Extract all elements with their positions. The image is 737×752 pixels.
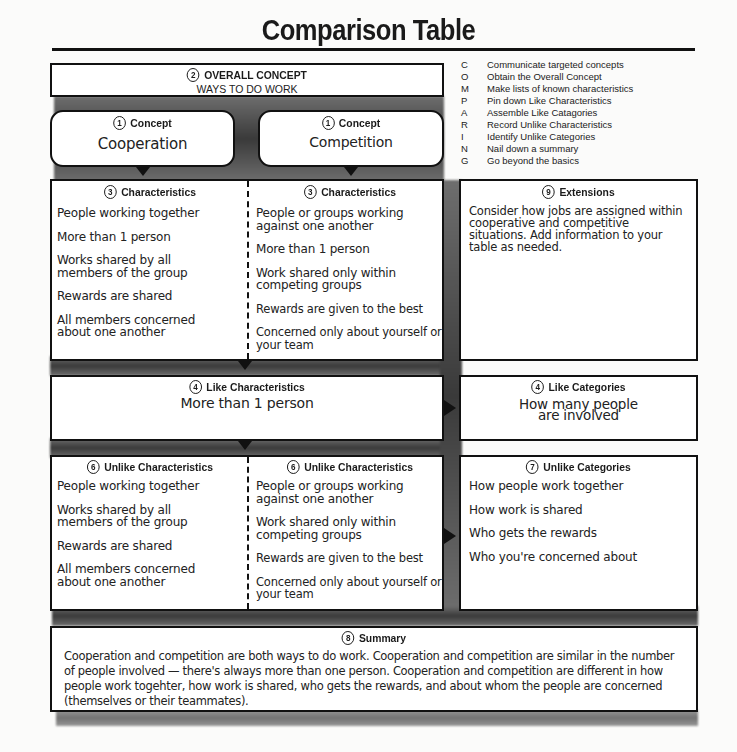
like-characteristics-box: 4Like Characteristics More than 1 person [50,375,444,441]
legend-letter: R [461,119,487,131]
list-item: All members concerned about one another [57,314,217,339]
dashed-divider [247,457,249,609]
legend-letter: P [461,95,487,107]
list-item: Concerned only about yourself or your te… [256,326,444,351]
list-item: Concerned only about yourself or your te… [256,576,444,601]
list-item: Works shared by all members of the group [57,504,207,529]
concept-label: Concept [130,117,171,129]
legend-letter: M [461,83,487,95]
list-item: Rewards are given to the best [256,303,444,316]
legend-text: Communicate targeted concepts [487,59,624,71]
step-number: 7 [526,460,539,474]
unlike-categories-box: 7Unlike Categories How people work toget… [459,455,698,611]
list-item: People working together [57,207,243,220]
like-categories-box: 4Like Categories How many people are inv… [459,375,698,441]
summary-box: 8Summary Cooperation and competition are… [50,626,698,712]
list-item: People or groups working against one ano… [256,207,416,232]
step-number: 1 [322,116,335,130]
legend-letter: I [461,131,487,143]
overall-concept-value: WAYS TO DO WORK [52,83,442,95]
list-item: Who gets the rewards [469,527,688,540]
unlike-characteristics-right: 6Unlike Characteristics People or groups… [256,460,444,612]
section-label: Unlike Categories [543,461,630,473]
list-item: Works shared by all members of the group [57,254,207,279]
step-number: 4 [531,380,544,394]
arrow-down-icon [238,441,252,450]
step-number: 3 [304,185,317,199]
list-item: All members concerned about one another [57,563,217,588]
unlike-characteristics-box: 6Unlike Characteristics People working t… [50,455,444,611]
list-item: Rewards are shared [57,290,243,303]
concept-value: Cooperation [52,138,233,151]
concept-value: Competition [260,136,442,149]
section-label: Unlike Characteristics [104,461,213,473]
arrow-down-icon [238,361,252,370]
legend-text: Obtain the Overall Concept [487,71,602,83]
legend-text: Assemble Like Catagories [487,107,597,119]
list-item: More than 1 person [256,243,444,256]
step-number: 2 [187,68,200,82]
concept-label: Concept [339,117,380,129]
legend-letter: O [461,71,487,83]
list-item: More than 1 person [57,231,243,244]
characteristics-left: 3Characteristics People working together… [57,185,243,350]
list-item: People or groups working against one ano… [256,480,416,505]
legend-text: Make lists of known characteristics [487,83,633,95]
section-label: Characteristics [121,186,196,198]
section-label: Characteristics [321,186,396,198]
legend-text: Record Unlike Characteristics [487,119,612,131]
concept-box-right: 1Concept Competition [258,110,444,167]
legend-letter: C [461,59,487,71]
list-item: Who you're concerned about [469,551,688,564]
extensions-text: Consider how jobs are assigned within co… [469,205,688,253]
step-number: 1 [113,116,126,130]
step-number: 4 [189,380,202,394]
list-item: Work shared only within competing groups [256,267,416,292]
step-number: 6 [287,460,300,474]
legend-text: Pin down Like Characteristics [487,95,612,107]
concept-box-left: 1Concept Cooperation [50,110,235,167]
list-item: How work is shared [469,504,688,517]
step-number: 3 [104,185,117,199]
section-label: Unlike Characteristics [304,461,413,473]
arrow-down-icon [344,167,358,176]
list-item: Work shared only within competing groups [256,516,416,541]
overall-concept-box: 2OVERALL CONCEPT WAYS TO DO WORK [50,63,444,97]
extensions-box: 9Extensions Consider how jobs are assign… [459,179,698,361]
unlike-characteristics-left: 6Unlike Characteristics People working t… [57,460,243,599]
legend-text: Nail down a summary [487,143,578,155]
characteristics-box: 3Characteristics People working together… [50,179,444,361]
like-categories-value: How many people are involved [509,399,649,421]
section-label: Like Characteristics [206,381,304,393]
step-number: 9 [542,185,555,199]
overall-concept-label: OVERALL CONCEPT [204,69,307,81]
section-label: Summary [359,632,406,644]
shadow [56,710,698,726]
arrow-down-icon [136,167,150,176]
page-title: Comparison Table [44,14,693,47]
arrow-right-icon [444,528,456,544]
legend-text: Go beyond the basics [487,155,579,167]
list-item: Rewards are given to the best [256,552,444,565]
like-characteristics-value: More than 1 person [52,397,442,410]
list-item: People working together [57,480,243,493]
step-number: 8 [342,631,355,645]
dashed-divider [247,181,249,359]
section-label: Extensions [559,186,614,198]
characteristics-right: 3Characteristics People or groups workin… [256,185,444,362]
legend-letter: G [461,155,487,167]
arrow-right-icon [444,400,456,416]
section-label: Like Categories [549,381,626,393]
title-rule [52,48,695,51]
legend-text: Identify Unlike Categories [487,131,595,143]
list-item: How people work together [469,480,688,493]
coMPARING-legend: CCommunicate targeted concepts OObtain t… [461,59,633,167]
legend-letter: N [461,143,487,155]
step-number: 6 [87,460,100,474]
legend-letter: A [461,107,487,119]
list-item: Rewards are shared [57,540,243,553]
summary-text: Cooperation and competition are both way… [64,649,684,709]
